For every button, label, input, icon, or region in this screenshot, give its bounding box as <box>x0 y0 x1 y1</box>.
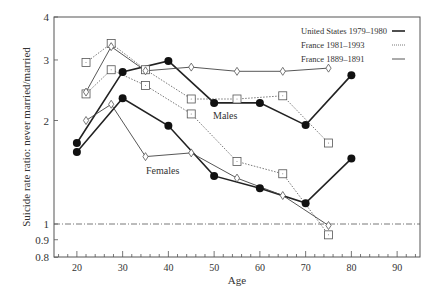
legend-label: France 1981–1993 <box>301 40 365 50</box>
plot-frame <box>54 17 420 257</box>
x-tick-label: 30 <box>118 262 128 273</box>
square-center-dot <box>191 98 192 99</box>
filled-circle-marker <box>73 148 81 156</box>
open-diamond-marker <box>326 64 331 72</box>
y-tick-label: 0.9 <box>35 234 49 246</box>
plot-border <box>54 17 420 257</box>
square-center-dot <box>237 98 238 99</box>
open-diamond-marker <box>234 67 239 75</box>
open-diamond-marker <box>83 117 88 125</box>
annotation-males: Males <box>213 110 238 121</box>
square-center-dot <box>145 85 146 86</box>
x-tick-label: 60 <box>255 262 265 273</box>
legend-label: France 1889–1891 <box>301 54 365 64</box>
series-line <box>86 44 329 144</box>
legend: United States 1979–1980France 1981–1993F… <box>301 26 405 64</box>
x-tick-label: 80 <box>346 262 356 273</box>
filled-circle-marker <box>256 99 264 107</box>
x-tick-label: 90 <box>392 262 402 273</box>
square-center-dot <box>328 234 329 235</box>
filled-circle-marker <box>302 199 310 207</box>
square-center-dot <box>86 62 87 63</box>
filled-circle-marker <box>73 139 81 147</box>
filled-circle-marker <box>347 71 355 79</box>
square-center-dot <box>328 143 329 144</box>
square-center-dot <box>111 69 112 70</box>
square-center-dot <box>237 161 238 162</box>
y-tick-label: 2 <box>44 115 50 127</box>
series-line <box>86 104 329 225</box>
y-tick-label: 0.8 <box>35 251 49 263</box>
open-diamond-marker <box>280 192 285 200</box>
y-axis-label: Suicide rate ratio: never married/marrie… <box>20 47 32 227</box>
filled-circle-marker <box>302 121 310 129</box>
filled-circle-marker <box>256 184 264 192</box>
filled-circle-marker <box>164 122 172 130</box>
square-center-dot <box>191 113 192 114</box>
series-lines <box>77 44 352 235</box>
legend-label: United States 1979–1980 <box>301 26 387 36</box>
filled-circle-marker <box>210 172 218 180</box>
filled-circle-marker <box>119 94 127 102</box>
open-diamond-marker <box>280 67 285 75</box>
x-tick-label: 50 <box>209 262 219 273</box>
y-tick-label: 3 <box>44 54 50 66</box>
square-center-dot <box>282 173 283 174</box>
filled-circle-marker <box>119 68 127 76</box>
axes: 20304050607080900.80.91234 <box>35 11 415 273</box>
filled-circle-marker <box>164 57 172 65</box>
y-tick-label: 4 <box>44 11 50 23</box>
filled-circle-marker <box>347 155 355 163</box>
square-center-dot <box>282 95 283 96</box>
filled-circle-marker <box>210 99 218 107</box>
annotation-females: Females <box>146 165 179 176</box>
chart-container: 20304050607080900.80.91234 United States… <box>0 0 441 301</box>
x-axis-label: Age <box>228 274 246 286</box>
open-diamond-marker <box>189 63 194 71</box>
open-diamond-marker <box>189 149 194 157</box>
x-tick-label: 40 <box>163 262 173 273</box>
open-diamond-marker <box>326 222 331 230</box>
x-tick-label: 70 <box>301 262 311 273</box>
x-tick-label: 20 <box>72 262 82 273</box>
y-tick-label: 1 <box>44 218 50 230</box>
